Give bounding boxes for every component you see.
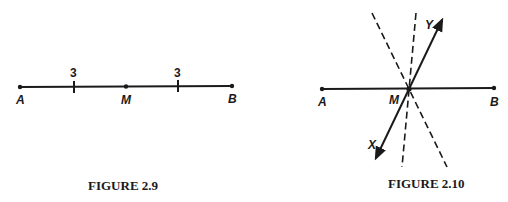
point-b <box>230 84 234 88</box>
label-a: A <box>15 93 25 107</box>
label-m: M <box>121 93 132 107</box>
label-y: Y <box>425 18 434 32</box>
label-x: X <box>367 138 377 152</box>
figure-2-9: 3 3 A M B FIGURE 2.9 <box>15 66 237 193</box>
label-a: A <box>317 95 327 109</box>
figure-2-10: A M B Y X FIGURE 2.10 <box>317 13 499 191</box>
segment-label-am: 3 <box>70 66 77 80</box>
point-a <box>320 87 324 91</box>
segment-label-mb: 3 <box>174 66 181 80</box>
figure-caption: FIGURE 2.9 <box>88 178 159 193</box>
point-a <box>18 85 22 89</box>
figure-caption: FIGURE 2.10 <box>388 176 465 191</box>
label-b: B <box>228 92 237 106</box>
label-m: M <box>389 93 400 107</box>
point-m <box>406 86 411 91</box>
point-b <box>492 86 496 90</box>
point-m <box>124 84 128 88</box>
label-b: B <box>490 95 499 109</box>
figures-canvas: 3 3 A M B FIGURE 2.9 A M B Y X FIGURE 2.… <box>0 0 508 202</box>
